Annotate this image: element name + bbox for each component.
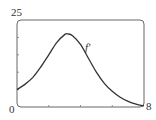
plot-frame: [17, 20, 144, 107]
f-prime-curve: [17, 34, 144, 106]
chart-plot: [0, 0, 156, 120]
